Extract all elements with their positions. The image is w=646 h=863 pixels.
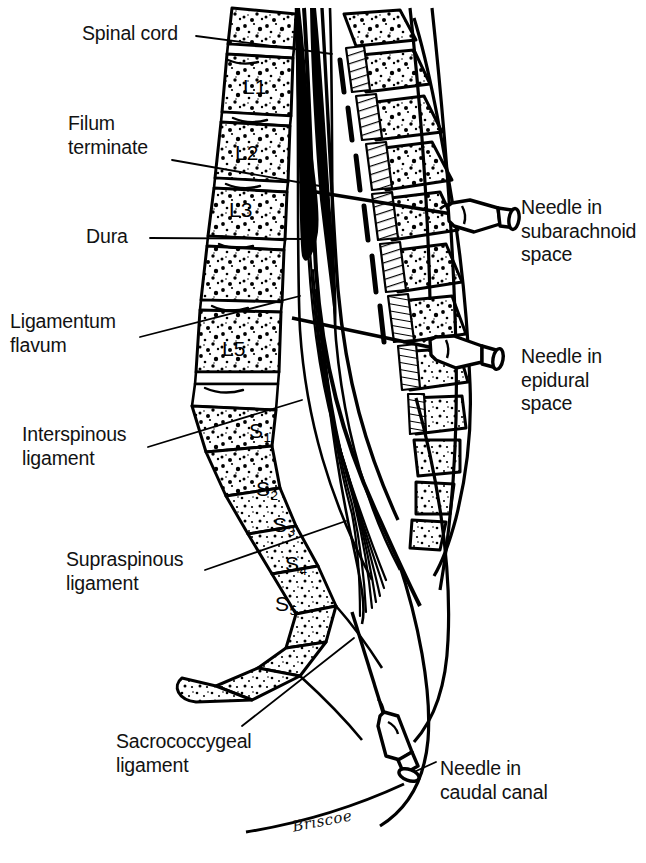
label-needle-caudal: Needle in caudal canal: [440, 757, 548, 804]
label-needle-epidural: Needle in epidural space: [521, 345, 602, 416]
illustration-canvas: Spinal cord Filum terminate Dura Ligamen…: [0, 0, 646, 863]
vertebra-label-s4: S4: [285, 552, 307, 576]
vertebra-label-l2: L2: [235, 141, 258, 165]
vertebra-label-s3: S3: [273, 513, 295, 537]
vertebra-label-l5: L5: [222, 337, 245, 361]
vertebra-label-s2: S2: [256, 477, 278, 501]
label-sacrococcygeal-ligament: Sacrococcygeal ligament: [116, 730, 252, 777]
label-dura: Dura: [86, 225, 128, 249]
leader-dura: [150, 238, 302, 239]
label-needle-subarachnoid: Needle in subarachnoid space: [521, 196, 636, 267]
vertebra-label-s1: S1: [249, 419, 271, 443]
vertebra-label-s5: S5: [275, 592, 297, 616]
label-supraspinous-ligament: Supraspinous ligament: [66, 548, 183, 595]
vertebra-label-l3: L3: [229, 198, 252, 222]
label-interspinous-ligament: Interspinous ligament: [22, 423, 126, 470]
label-spinal-cord: Spinal cord: [82, 22, 178, 46]
vertebra-label-l1: L1: [243, 75, 266, 99]
label-filum-terminate: Filum terminate: [68, 112, 148, 159]
label-ligamentum-flavum: Ligamentum flavum: [10, 310, 116, 357]
